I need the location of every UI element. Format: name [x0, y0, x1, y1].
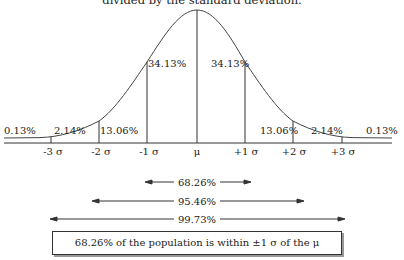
region-label-far-right: 0.13%: [366, 125, 398, 136]
bell-curve: [4, 10, 392, 138]
tick-label-minus-3-sigma: -3 σ: [43, 146, 63, 157]
region-label-right-34: 34.13%: [211, 58, 249, 69]
region-label-left-34: 34.13%: [148, 58, 186, 69]
interval-label-68: 68.26%: [174, 177, 220, 188]
tick-label-minus-2-sigma: -2 σ: [91, 146, 111, 157]
tick-label-plus-3-sigma: +3 σ: [331, 146, 356, 157]
interval-label-95: 95.46%: [174, 196, 220, 207]
region-label-right-13: 13.06%: [260, 125, 298, 136]
region-label-right-2: 2.14%: [311, 125, 343, 136]
tick-label-minus-1-sigma: -1 σ: [139, 146, 159, 157]
region-label-far-left: 0.13%: [4, 125, 36, 136]
tick-label-plus-2-sigma: +2 σ: [282, 146, 307, 157]
tick-label-plus-1-sigma: +1 σ: [234, 146, 259, 157]
summary-note: 68.26% of the population is within ±1 σ …: [52, 231, 342, 255]
region-label-left-2: 2.14%: [54, 125, 86, 136]
interval-label-99: 99.73%: [174, 214, 220, 225]
region-label-left-13: 13.06%: [100, 125, 138, 136]
tick-label-mu: μ: [194, 146, 201, 157]
